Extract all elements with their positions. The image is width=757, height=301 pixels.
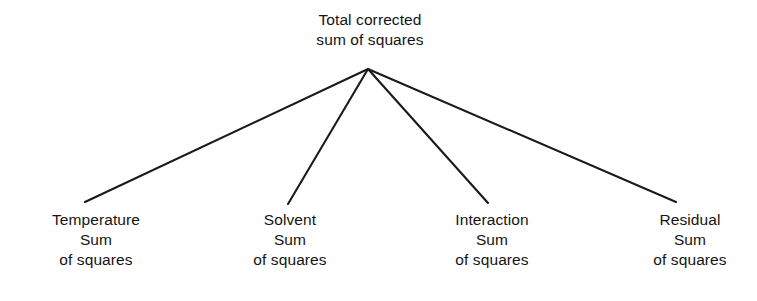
connector-line-temperature bbox=[85, 69, 368, 202]
connector-line-interaction bbox=[368, 69, 488, 203]
connector-line-residual bbox=[368, 69, 676, 202]
node-root-line-2: sum of squares bbox=[316, 30, 423, 50]
node-solvent-line-3: of squares bbox=[253, 250, 326, 270]
node-root-line-1: Total corrected bbox=[316, 10, 423, 30]
node-interaction-line-3: of squares bbox=[455, 250, 528, 270]
node-temperature-line-1: Temperature bbox=[52, 210, 140, 230]
node-solvent-line-2: Sum bbox=[253, 230, 326, 250]
node-solvent-sum-of-squares: Solvent Sum of squares bbox=[253, 210, 326, 270]
node-temperature-sum-of-squares: Temperature Sum of squares bbox=[52, 210, 140, 270]
node-residual-sum-of-squares: Residual Sum of squares bbox=[653, 210, 726, 270]
node-interaction-sum-of-squares: Interaction Sum of squares bbox=[455, 210, 528, 270]
node-residual-line-2: Sum bbox=[653, 230, 726, 250]
node-interaction-line-2: Sum bbox=[455, 230, 528, 250]
node-interaction-line-1: Interaction bbox=[455, 210, 528, 230]
connector-line-solvent bbox=[288, 69, 368, 204]
node-temperature-line-3: of squares bbox=[52, 250, 140, 270]
node-residual-line-1: Residual bbox=[653, 210, 726, 230]
node-residual-line-3: of squares bbox=[653, 250, 726, 270]
node-temperature-line-2: Sum bbox=[52, 230, 140, 250]
anova-sum-of-squares-diagram: Total corrected sum of squares Temperatu… bbox=[0, 0, 757, 301]
node-solvent-line-1: Solvent bbox=[253, 210, 326, 230]
node-total-corrected-sum-of-squares: Total corrected sum of squares bbox=[316, 10, 423, 50]
